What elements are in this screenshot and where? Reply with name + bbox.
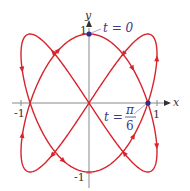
label-t-pi-6: t = [104, 110, 123, 124]
tick-label-y-pos: 1 [80, 24, 87, 37]
leader-t0 [91, 29, 101, 33]
arrowhead-icon [154, 55, 159, 61]
lissajous-figure: x y 1 -1 -1 1 t = 0 t = π 6 [0, 0, 190, 191]
axes [12, 28, 166, 188]
label-t0: t = 0 [103, 21, 134, 35]
arrowhead-icon [130, 132, 137, 140]
point-t-pi-6 [145, 100, 150, 105]
label-six: 6 [126, 119, 134, 133]
y-axis-label: y [84, 9, 92, 22]
point-t0 [86, 31, 91, 36]
x-axis-label: x [173, 96, 180, 109]
x-axis-arrow-icon [164, 100, 171, 106]
tick-label-y-neg: -1 [74, 171, 85, 184]
label-pi: π [125, 103, 135, 117]
arrowhead-icon [154, 143, 159, 149]
tick-label-x-neg: -1 [14, 107, 25, 120]
tick-label-x-pos: 1 [153, 108, 160, 121]
arrowhead-icon [129, 65, 136, 73]
